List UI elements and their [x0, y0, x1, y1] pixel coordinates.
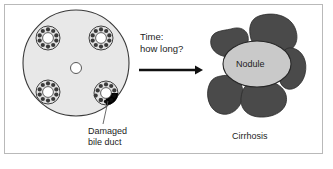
time-arrow-group — [139, 66, 203, 75]
diagram-canvas — [0, 0, 333, 169]
portal-triad-bottom-left — [36, 80, 60, 104]
time-label-line2: how long? — [140, 43, 183, 54]
portal-triad-top-right — [89, 26, 113, 50]
nodule-label: Nodule — [236, 59, 265, 69]
figure-root: Time:how long? Damagedbile duct Nodule C… — [0, 0, 333, 169]
portal-triad-bottom-right-damaged — [94, 81, 118, 105]
damaged-bile-duct-label: Damagedbile duct — [88, 126, 127, 148]
time-label-line1: Time: — [140, 31, 163, 42]
damaged-label-line2: bile duct — [88, 137, 122, 147]
time-label-block: Time:how long? — [140, 31, 183, 54]
damaged-label-line1: Damaged — [88, 126, 127, 136]
central-vein-icon — [71, 63, 82, 74]
portal-triad-top-left — [36, 26, 60, 50]
cirrhosis-caption: Cirrhosis — [232, 131, 268, 142]
liver-lobule-group — [23, 10, 129, 124]
arrow-head-icon — [195, 66, 203, 75]
